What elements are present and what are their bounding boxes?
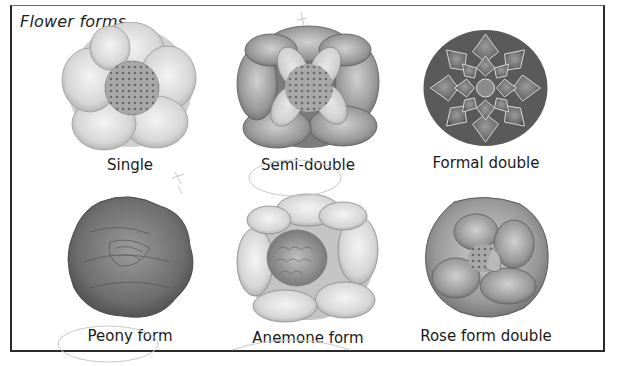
peony-flower-icon — [60, 192, 200, 322]
semi-double-flower-icon — [233, 22, 383, 152]
label-anemone: Anemone form — [218, 329, 398, 347]
label-rose-double: Rose form double — [396, 327, 576, 345]
label-single: Single — [40, 156, 220, 174]
formal-double-flower-icon — [419, 22, 554, 150]
rose-double-flower-icon — [416, 192, 556, 322]
flower-cell-semi-double: Semi-double — [218, 22, 398, 187]
flower-cell-rose-double: Rose form double — [396, 192, 576, 357]
flower-cell-anemone: Anemone form — [218, 192, 398, 357]
flower-cell-single: Single — [40, 22, 220, 187]
flower-cell-peony: Peony form — [40, 192, 220, 357]
label-formal-double: Formal double — [396, 154, 576, 172]
flower-cell-formal-double: Formal double — [396, 22, 576, 187]
single-flower-icon — [60, 22, 200, 152]
anemone-flower-icon — [233, 192, 383, 327]
label-peony: Peony form — [40, 327, 220, 345]
label-semi-double: Semi-double — [218, 156, 398, 174]
